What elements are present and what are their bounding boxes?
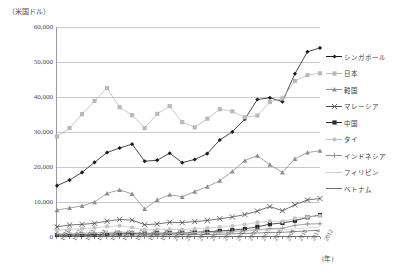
data-point <box>305 73 309 77</box>
x-axis-tickmark <box>94 237 95 239</box>
legend-item-5[interactable]: 中国 <box>326 118 400 127</box>
y-axis-tick: 50,000 <box>3 58 53 66</box>
legend-item-label: マレーシア <box>344 101 379 111</box>
data-point <box>280 208 285 213</box>
data-point <box>105 86 109 90</box>
data-point <box>167 192 172 196</box>
data-point <box>192 189 197 193</box>
data-point <box>155 198 160 202</box>
x-axis-tickmark <box>169 237 170 239</box>
data-point <box>332 120 336 124</box>
data-point <box>105 224 109 228</box>
series-line <box>57 48 320 186</box>
data-point <box>280 219 284 223</box>
data-point <box>92 99 96 103</box>
data-point <box>67 178 71 182</box>
legend-item-6[interactable]: タイ <box>326 135 400 144</box>
y-axis-tick-labels: 60,00050,00040,00030,00020,00010,0000 <box>0 27 53 237</box>
data-point <box>332 54 336 58</box>
data-point <box>117 187 122 191</box>
data-point <box>180 120 184 124</box>
legend-item-label: 日本 <box>344 68 358 78</box>
y-axis-tick: 60,000 <box>3 23 53 31</box>
legend-swatch-icon <box>326 184 342 193</box>
data-point <box>205 117 209 121</box>
series-3 <box>55 148 323 212</box>
data-point <box>331 103 336 108</box>
data-point <box>118 105 122 109</box>
data-point <box>293 79 297 83</box>
data-point <box>305 215 309 219</box>
x-axis-tickmark <box>182 237 183 239</box>
y-axis-tick: 30,000 <box>3 128 53 136</box>
x-axis-tickmark <box>307 237 308 239</box>
data-point <box>55 184 59 188</box>
x-axis-tick-labels: 1991199219931994199519961997199819992000… <box>56 239 320 273</box>
x-axis-tickmark <box>144 237 145 239</box>
data-point <box>305 50 309 54</box>
x-axis-tickmark <box>81 237 82 239</box>
data-point <box>318 214 322 218</box>
series-layer <box>57 27 320 236</box>
x-axis-tickmark <box>194 237 195 239</box>
data-point <box>293 223 298 228</box>
data-point <box>193 157 197 161</box>
x-axis-tickmark <box>219 237 220 239</box>
x-axis-tickmark <box>257 237 258 239</box>
data-point <box>230 224 234 228</box>
plot-area <box>56 27 320 237</box>
legend-item-2[interactable]: 日本 <box>326 69 400 78</box>
legend-item-1[interactable]: シンガポール <box>326 52 400 61</box>
legend-item-label: シンガポール <box>344 52 386 62</box>
data-point <box>243 222 247 226</box>
data-point <box>255 209 260 214</box>
x-axis-tickmark <box>56 237 57 239</box>
y-axis-tick: 0 <box>3 233 53 241</box>
data-point <box>268 100 272 104</box>
data-point <box>255 153 260 157</box>
legend-swatch-icon <box>326 102 342 111</box>
data-point <box>293 216 297 220</box>
data-point <box>242 158 247 162</box>
data-point <box>268 162 273 166</box>
data-point <box>293 72 297 76</box>
data-point <box>255 113 259 117</box>
data-point <box>218 225 222 229</box>
series-line <box>57 73 320 136</box>
x-axis-tickmark <box>282 237 283 239</box>
data-point <box>80 112 84 116</box>
x-axis-tickmark <box>245 237 246 239</box>
legend-item-label: 中国 <box>344 118 358 128</box>
y-axis-tick: 10,000 <box>3 198 53 206</box>
data-point <box>155 112 159 116</box>
x-axis-tickmark <box>69 237 70 239</box>
data-point <box>268 96 272 100</box>
data-point <box>280 96 284 100</box>
data-point <box>332 87 337 92</box>
data-point <box>130 113 134 117</box>
legend-item-9[interactable]: ベトナム <box>326 184 400 193</box>
legend-item-3[interactable]: 韓国 <box>326 85 400 94</box>
legend-item-label: ベトナム <box>344 184 372 194</box>
x-axis-tickmark <box>232 237 233 239</box>
x-axis-tickmark <box>270 237 271 239</box>
data-point <box>143 126 147 130</box>
x-axis-tickmark <box>320 237 321 239</box>
y-axis-tick: 20,000 <box>3 163 53 171</box>
data-point <box>255 220 259 224</box>
data-point <box>292 202 297 207</box>
legend-item-8[interactable]: フィリピン <box>326 168 400 177</box>
legend-item-7[interactable]: インドネシア <box>326 151 400 160</box>
data-point <box>255 97 259 101</box>
data-point <box>332 137 336 141</box>
legend-item-label: タイ <box>344 134 358 144</box>
legend-swatch-icon <box>326 85 342 94</box>
data-point <box>230 109 234 113</box>
legend-item-label: フィリピン <box>344 167 379 177</box>
legend-item-label: 韓国 <box>344 85 358 95</box>
series-1 <box>55 46 322 188</box>
data-point <box>268 219 272 223</box>
data-point <box>318 221 323 226</box>
legend-item-4[interactable]: マレーシア <box>326 102 400 111</box>
data-point <box>293 156 298 160</box>
